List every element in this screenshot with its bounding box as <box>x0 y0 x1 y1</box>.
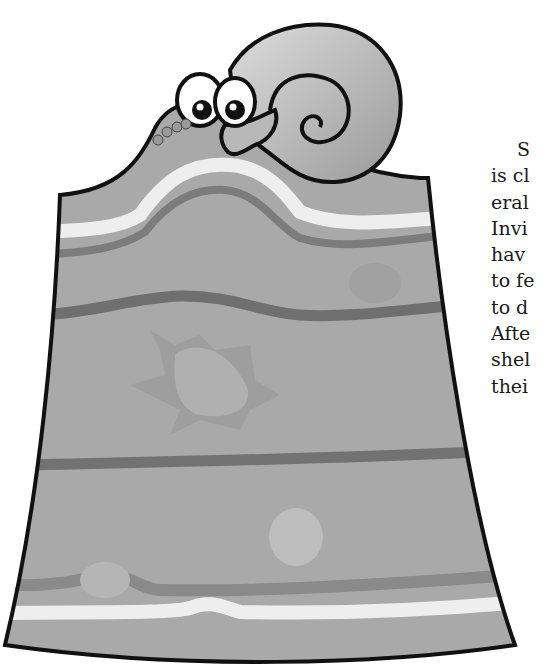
body-text-column: S is cl eral Invi hav to fe to d Afte sh… <box>491 136 560 399</box>
text-line: eral <box>491 189 560 215</box>
rock-strata-block <box>5 102 515 662</box>
text-line: Invi <box>491 215 560 241</box>
text-line: to d <box>491 294 560 320</box>
fossil-pebble-bump <box>80 562 130 598</box>
text-line: shel <box>491 346 560 372</box>
snail-strata-illustration <box>0 0 560 670</box>
text-line: is cl <box>491 162 560 188</box>
text-line: to fe <box>491 267 560 293</box>
text-line: hav <box>491 241 560 267</box>
text-line: Afte <box>491 320 560 346</box>
text-line: thei <box>491 373 560 399</box>
fossil-blob <box>349 263 401 303</box>
snail-eyes <box>177 74 255 126</box>
text-line: S <box>491 136 560 162</box>
fossil-pebble <box>269 508 323 566</box>
